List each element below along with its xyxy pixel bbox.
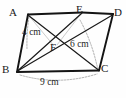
vertex-label-A: A <box>9 7 17 18</box>
edge-BC <box>17 71 99 73</box>
vertex-label-C: C <box>101 63 108 74</box>
vertex-label-F: F <box>50 42 56 53</box>
edge-AE <box>28 13 82 15</box>
vertex-label-D: D <box>114 7 122 18</box>
measurement-label-base-9cm: 9 cm <box>40 77 59 87</box>
vertex-label-B: B <box>2 64 9 75</box>
figure-canvas <box>0 0 126 98</box>
figure-diagonals <box>18 14 113 72</box>
edge-ED <box>82 13 113 15</box>
vertex-label-E: E <box>76 4 83 15</box>
measurement-label-height-4cm: 4 cm <box>22 27 41 37</box>
measurement-label-height-6cm: 6 cm <box>70 39 89 49</box>
diagonal-BD <box>18 15 113 71</box>
geometry-figure: A E D B C F 4 cm 6 cm 9 cm <box>0 0 126 98</box>
